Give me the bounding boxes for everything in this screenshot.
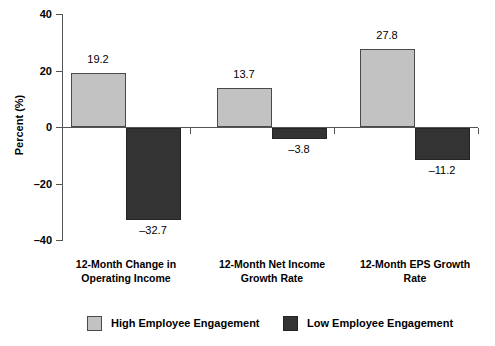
- bar-value-label: –11.2: [407, 165, 477, 176]
- bar-high-eps-growth[interactable]: [360, 49, 415, 127]
- y-tick-label-40: 40: [0, 9, 52, 20]
- legend-swatch-high-icon: [87, 316, 102, 331]
- y-tick-label-0: 0: [0, 122, 52, 133]
- category-label-line1: 12-Month Net Income: [192, 257, 352, 271]
- bar-high-operating-income[interactable]: [71, 73, 126, 127]
- y-tick-mark: [56, 14, 62, 15]
- x-tick-mark: [190, 128, 191, 134]
- y-tick-mark: [56, 71, 62, 72]
- bar-value-label: 13.7: [209, 69, 279, 80]
- y-tick-label-20: 20: [0, 66, 52, 77]
- bar-value-label: 27.8: [352, 30, 422, 41]
- bar-low-net-income[interactable]: [272, 128, 327, 139]
- category-label-line2: Growth Rate: [192, 271, 352, 285]
- legend-item-high-engagement[interactable]: High Employee Engagement: [87, 313, 260, 333]
- y-tick-mark: [56, 184, 62, 185]
- category-label-net-income: 12-Month Net Income Growth Rate: [192, 257, 352, 285]
- y-tick-mark: [56, 240, 62, 241]
- bar-high-net-income[interactable]: [217, 88, 272, 127]
- category-label-operating-income: 12-Month Change in Operating Income: [46, 257, 206, 285]
- x-tick-mark: [478, 128, 479, 134]
- chart-legend: High Employee Engagement Low Employee En…: [0, 313, 495, 337]
- grouped-bar-chart: Percent (%) 40 20 0 –20 –40 19.2 –32.7 1…: [0, 0, 495, 346]
- legend-label-low: Low Employee Engagement: [307, 318, 453, 329]
- category-label-line2: Rate: [335, 271, 495, 285]
- bar-value-label: –3.8: [264, 144, 334, 155]
- legend-item-low-engagement[interactable]: Low Employee Engagement: [283, 313, 453, 333]
- legend-swatch-low-icon: [283, 316, 298, 331]
- bar-value-label: –32.7: [118, 225, 188, 236]
- category-label-line1: 12-Month EPS Growth: [335, 257, 495, 271]
- legend-label-high: High Employee Engagement: [111, 318, 260, 329]
- bar-low-eps-growth[interactable]: [415, 128, 470, 160]
- category-label-eps-growth: 12-Month EPS Growth Rate: [335, 257, 495, 285]
- bar-low-operating-income[interactable]: [126, 128, 181, 220]
- x-tick-mark: [334, 128, 335, 134]
- category-label-line1: 12-Month Change in: [46, 257, 206, 271]
- category-label-line2: Operating Income: [46, 271, 206, 285]
- bar-value-label: 19.2: [63, 54, 133, 65]
- y-tick-label-neg40: –40: [0, 235, 52, 246]
- y-tick-label-neg20: –20: [0, 179, 52, 190]
- x-tick-mark: [62, 128, 63, 134]
